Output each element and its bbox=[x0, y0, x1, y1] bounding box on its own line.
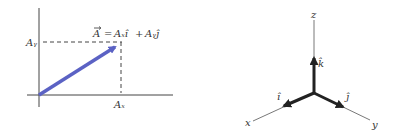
y-label: y bbox=[371, 119, 378, 130]
x-label: x bbox=[245, 117, 251, 128]
svg-text:A: A bbox=[92, 28, 100, 39]
vector-equation: A = Aₓî + Aᵧĵ bbox=[92, 27, 160, 40]
i-hat-arrow bbox=[284, 93, 314, 106]
svg-text:Aₓî: Aₓî bbox=[113, 28, 129, 39]
left-vector-diagram: Aᵧ Aₓ A = Aₓî + Aᵧĵ bbox=[25, 8, 173, 110]
svg-text:Aᵧĵ: Aᵧĵ bbox=[144, 28, 160, 39]
j-hat-arrow bbox=[314, 93, 343, 107]
k-hat-label: k̂ bbox=[318, 57, 324, 69]
svg-text:+: + bbox=[135, 28, 143, 39]
ax-label: Aₓ bbox=[113, 99, 125, 110]
vector-a-arrow bbox=[39, 47, 115, 95]
svg-text:=: = bbox=[104, 28, 112, 39]
j-hat-label: ĵ bbox=[344, 91, 350, 102]
right-unit-vector-diagram: z x y k̂ î ĵ bbox=[245, 9, 378, 130]
z-label: z bbox=[310, 9, 317, 20]
vector-diagrams: Aᵧ Aₓ A = Aₓî + Aᵧĵ z x y k̂ î ĵ bbox=[0, 0, 402, 132]
i-hat-label: î bbox=[277, 91, 281, 102]
ay-label: Aᵧ bbox=[25, 37, 37, 48]
